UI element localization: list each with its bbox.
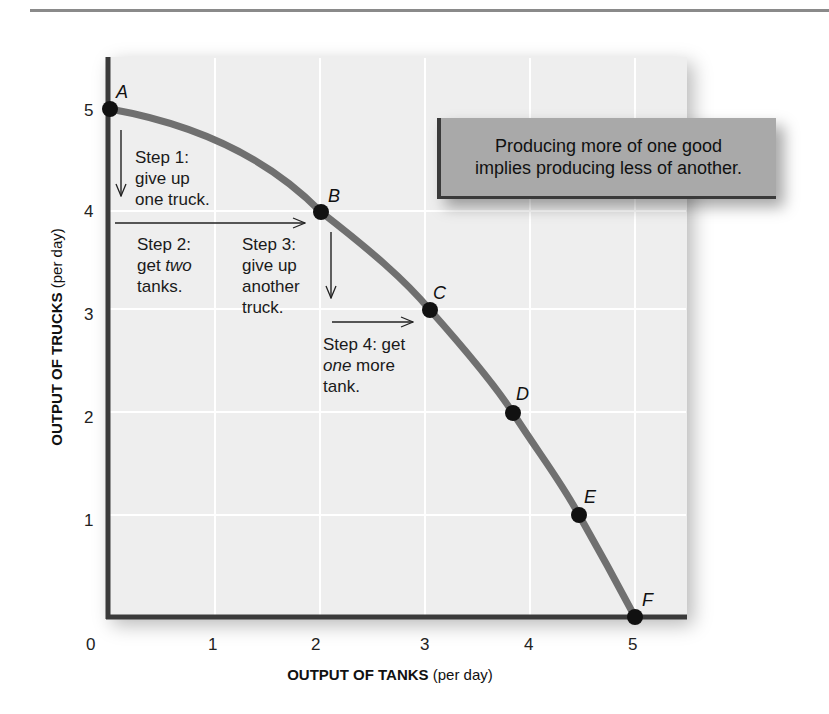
step3-line3: another bbox=[242, 276, 300, 297]
step4-more: more bbox=[351, 356, 394, 375]
x-axis-title: OUTPUT OF TANKS (per day) bbox=[0, 666, 780, 683]
y-axis-title-unit: (per day) bbox=[48, 228, 65, 292]
x-tick-3: 3 bbox=[420, 635, 429, 654]
point-b bbox=[313, 204, 329, 220]
step4-line3: tank. bbox=[323, 376, 405, 397]
step1-line3: one truck. bbox=[135, 189, 210, 210]
x-tick-0: 0 bbox=[86, 635, 95, 654]
step4-line2: one more bbox=[323, 355, 405, 376]
callout-line2: implies producing less of another. bbox=[475, 157, 742, 179]
x-tick-1: 1 bbox=[208, 635, 217, 654]
y-tick-4: 4 bbox=[84, 202, 93, 221]
point-label-f: F bbox=[642, 590, 654, 610]
point-a bbox=[102, 101, 118, 117]
point-label-d: D bbox=[516, 384, 529, 404]
point-d bbox=[505, 405, 521, 421]
x-tick-4: 4 bbox=[524, 635, 533, 654]
y-tick-3: 3 bbox=[84, 305, 93, 324]
x-axis-title-unit: (per day) bbox=[429, 666, 493, 683]
point-label-a: A bbox=[115, 82, 128, 102]
x-axis-title-bold: OUTPUT OF TANKS bbox=[287, 666, 428, 683]
step3-annotation: Step 3: give up another truck. bbox=[242, 234, 300, 318]
step4-one: one bbox=[323, 356, 351, 375]
point-e bbox=[571, 507, 587, 523]
x-tick-5: 5 bbox=[628, 635, 637, 654]
point-f bbox=[627, 609, 643, 625]
step2-annotation: Step 2: get two tanks. bbox=[137, 234, 192, 297]
step2-line1: Step 2: bbox=[137, 234, 192, 255]
y-axis-title: OUTPUT OF TRUCKS (per day) bbox=[48, 228, 65, 446]
point-label-b: B bbox=[328, 186, 340, 206]
step1-annotation: Step 1: give up one truck. bbox=[135, 147, 210, 210]
step4-line1: Step 4: get bbox=[323, 334, 405, 355]
step3-line4: truck. bbox=[242, 297, 300, 318]
y-axis-title-bold: OUTPUT OF TRUCKS bbox=[48, 292, 65, 445]
point-c bbox=[422, 302, 438, 318]
y-tick-5: 5 bbox=[84, 101, 93, 120]
ppf-chart: A B C D E F 5 4 3 2 1 0 1 2 3 4 5 bbox=[0, 0, 829, 714]
step4-annotation: Step 4: get one more tank. bbox=[323, 334, 405, 397]
point-label-c: C bbox=[433, 283, 447, 303]
callout-line1: Producing more of one good bbox=[495, 135, 722, 157]
step2-get: get bbox=[137, 256, 165, 275]
step1-line1: Step 1: bbox=[135, 147, 210, 168]
step2-two: two bbox=[165, 256, 191, 275]
x-tick-2: 2 bbox=[311, 635, 320, 654]
y-tick-1: 1 bbox=[84, 511, 93, 530]
callout-box: Producing more of one good implies produ… bbox=[437, 118, 776, 199]
step3-line2: give up bbox=[242, 255, 300, 276]
step2-line2: get two bbox=[137, 255, 192, 276]
step2-line3: tanks. bbox=[137, 276, 192, 297]
point-label-e: E bbox=[584, 487, 597, 507]
step3-line1: Step 3: bbox=[242, 234, 300, 255]
y-tick-2: 2 bbox=[84, 408, 93, 427]
step1-line2: give up bbox=[135, 168, 210, 189]
